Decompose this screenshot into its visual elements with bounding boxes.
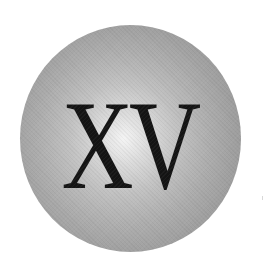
roman-numeral-text: XV (43, 81, 215, 209)
decorative-mark (262, 196, 263, 200)
roman-numeral-sphere-badge: XV (20, 25, 241, 252)
